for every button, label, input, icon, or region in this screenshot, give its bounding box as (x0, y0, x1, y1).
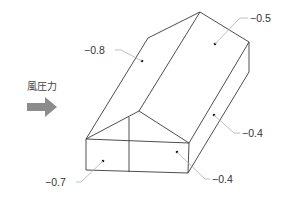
building-outline (86, 12, 249, 173)
wind-pressure-label: 風圧力 (27, 80, 57, 92)
coefficient-windward-roof: −0.8 (84, 44, 105, 56)
coefficient-gable-wall-left: −0.7 (45, 176, 66, 188)
coefficient-side-wall: −0.4 (242, 127, 263, 139)
building-diagram: 風圧力 −0.8 −0.5 −0.4 −0.4 −0.7 (0, 0, 293, 205)
coefficient-leeward-roof: −0.5 (250, 12, 271, 24)
wind-arrow-icon (27, 97, 57, 117)
leader-lines (76, 18, 248, 182)
measurement-points (102, 43, 217, 163)
coefficient-gable-wall-right: −0.4 (212, 173, 233, 185)
